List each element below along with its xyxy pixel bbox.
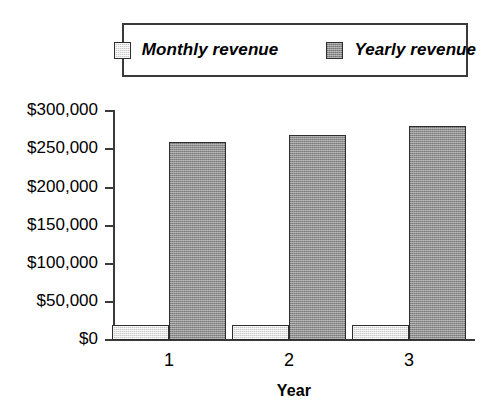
x-tick-label: 2 bbox=[259, 350, 319, 370]
x-axis-title: Year bbox=[113, 382, 475, 400]
bar-yearly-year-1 bbox=[169, 142, 226, 340]
x-tick-label: 1 bbox=[139, 350, 199, 370]
bar-monthly-year-3 bbox=[352, 325, 409, 340]
bar-chart: Monthly revenue Yearly revenue $300,000 … bbox=[0, 0, 496, 418]
bar-monthly-year-1 bbox=[112, 325, 169, 340]
bar-monthly-year-2 bbox=[232, 325, 289, 340]
plot-area: $300,000 $250,000 $200,000 $150,000 $100… bbox=[0, 0, 496, 418]
bar-yearly-year-2 bbox=[289, 135, 346, 340]
bar-yearly-year-3 bbox=[409, 126, 466, 340]
x-tick-label: 3 bbox=[379, 350, 439, 370]
